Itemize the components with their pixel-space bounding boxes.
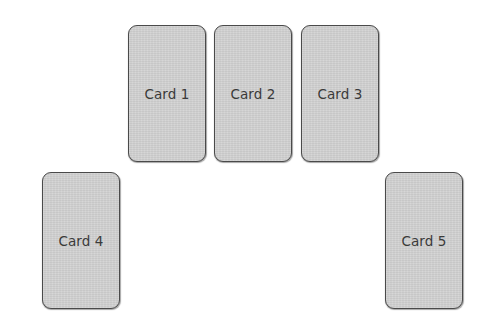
card-4[interactable]: Card 4 — [42, 172, 120, 309]
card-5[interactable]: Card 5 — [385, 172, 463, 309]
card-4-label: Card 4 — [58, 233, 103, 249]
card-2-label: Card 2 — [230, 86, 275, 102]
card-1[interactable]: Card 1 — [128, 25, 206, 162]
card-3-label: Card 3 — [317, 86, 362, 102]
card-3[interactable]: Card 3 — [301, 25, 379, 162]
card-1-label: Card 1 — [144, 86, 189, 102]
card-layout-diagram: Card 1 Card 2 Card 3 Card 4 Card 5 — [0, 0, 497, 331]
card-5-label: Card 5 — [401, 233, 446, 249]
card-2[interactable]: Card 2 — [214, 25, 292, 162]
